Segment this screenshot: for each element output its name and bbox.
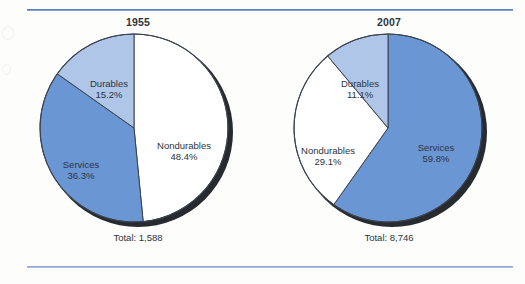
pie-title-2007: 2007 xyxy=(265,14,513,30)
pie-stage-2007: Durables 11.1% Nondurables 29.1% Service… xyxy=(265,30,513,226)
pie-panel-1955: 1955 Durables 15.2% Services 36.3% Nondu… xyxy=(14,14,262,262)
top-rule xyxy=(27,9,513,11)
pie-stage-1955: Durables 15.2% Services 36.3% Nondurable… xyxy=(14,30,262,226)
pie-svg-2007 xyxy=(292,32,484,224)
pie-panel-2007: 2007 Durables 11.1% Nondurables 29.1% Se… xyxy=(265,14,513,262)
pie-title-1955: 1955 xyxy=(14,14,262,30)
bottom-rule xyxy=(27,266,513,268)
scan-artifact xyxy=(2,26,14,40)
pie-total-2007: Total: 8,746 xyxy=(265,232,513,243)
pie-total-1955: Total: 1,588 xyxy=(14,232,262,243)
figure-container: 1955 Durables 15.2% Services 36.3% Nondu… xyxy=(0,0,525,284)
scan-artifact xyxy=(2,64,11,75)
pie-slice-nondurables xyxy=(134,34,228,222)
pie-chart-1955 xyxy=(38,32,234,228)
pie-svg-1955 xyxy=(38,32,230,224)
pie-chart-2007 xyxy=(292,32,488,228)
